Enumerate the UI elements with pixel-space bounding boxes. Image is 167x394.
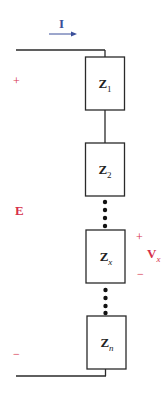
vx-plus-sign: + [136,231,143,243]
circuit-wiring [0,0,167,394]
z2-label: Z2 [85,163,125,180]
ellipsis-dots-lower [103,288,107,315]
zx-label: Zx [86,250,126,267]
source-plus-sign: + [13,75,20,87]
vx-minus-sign: − [137,268,144,280]
source-minus-sign: − [13,348,20,360]
current-arrow-head [71,32,77,37]
zn-label: Zn [87,336,127,353]
vx-label: Vx [147,247,160,264]
z1-label: Z1 [85,77,125,94]
ellipsis-dots-upper [103,200,107,228]
source-label: E [15,204,24,217]
current-label: I [59,17,64,30]
